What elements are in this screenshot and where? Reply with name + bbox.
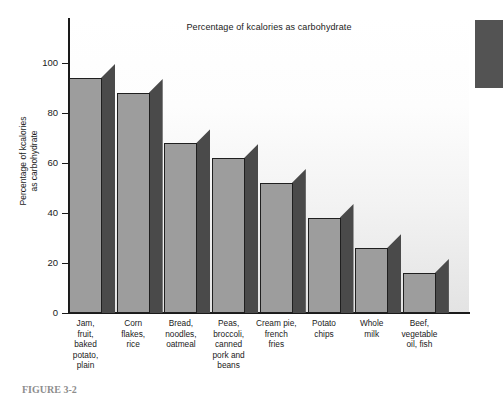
category-label-line: oatmeal — [157, 339, 204, 350]
category-label-8: Beef,vegetableoil, fish — [396, 318, 443, 350]
category-label-line: Jam, — [62, 318, 109, 329]
bar-front-face — [69, 78, 102, 313]
bar-side-panel — [149, 79, 163, 313]
bar-side-panel — [101, 64, 115, 313]
bar-8 — [403, 273, 436, 313]
category-label-line: oil, fish — [396, 339, 443, 350]
category-label-line: vegetable — [396, 329, 443, 340]
bar-7 — [355, 248, 388, 313]
category-label-line: milk — [348, 329, 395, 340]
category-label-2: Cornflakes,rice — [110, 318, 157, 350]
category-label-line: canned — [205, 339, 252, 350]
bar-front-face — [212, 158, 245, 313]
bar-2 — [117, 93, 150, 313]
bar-front-face — [117, 93, 150, 313]
category-label-line: rice — [110, 339, 157, 350]
category-label-4: Peas,broccoli,cannedpork andbeans — [205, 318, 252, 371]
category-label-5: Cream pie,frenchfries — [253, 318, 300, 350]
category-label-line: beans — [205, 360, 252, 371]
bar-front-face — [260, 183, 293, 313]
corner-color-swatch — [475, 20, 503, 88]
bar-side-panel — [340, 204, 354, 313]
category-label-line: Beef, — [396, 318, 443, 329]
bar-side-panel — [244, 144, 258, 313]
category-label-line: Corn — [110, 318, 157, 329]
bar-side-panel — [387, 234, 401, 313]
bar-side-panel — [196, 129, 210, 313]
bar-side-panel — [292, 169, 306, 313]
bar-3 — [164, 143, 197, 313]
bar-4 — [212, 158, 245, 313]
category-label-6: Potatochips — [301, 318, 348, 339]
category-label-line: plain — [62, 360, 109, 371]
bar-side-panel — [435, 259, 449, 313]
category-label-line: Bread, — [157, 318, 204, 329]
bar-front-face — [308, 218, 341, 313]
category-label-line: fruit, — [62, 329, 109, 340]
category-label-line: noodles, — [157, 329, 204, 340]
category-label-line: fries — [253, 339, 300, 350]
category-label-line: broccoli, — [205, 329, 252, 340]
category-label-line: Cream pie, — [253, 318, 300, 329]
category-label-line: Whole — [348, 318, 395, 329]
bar-1 — [69, 78, 102, 313]
figure-caption: FIGURE 3-2 — [22, 384, 77, 393]
category-label-7: Wholemilk — [348, 318, 395, 339]
category-label-line: baked — [62, 339, 109, 350]
category-label-line: flakes, — [110, 329, 157, 340]
bar-front-face — [403, 273, 436, 313]
category-label-line: chips — [301, 329, 348, 340]
category-label-line: potato, — [62, 350, 109, 361]
category-label-line: pork and — [205, 350, 252, 361]
category-label-line: Peas, — [205, 318, 252, 329]
bar-front-face — [355, 248, 388, 313]
category-label-1: Jam,fruit,bakedpotato,plain — [62, 318, 109, 371]
bar-6 — [308, 218, 341, 313]
bar-5 — [260, 183, 293, 313]
figure-panel: Percentage of kcalories as carbohydrate … — [0, 0, 503, 393]
category-label-3: Bread,noodles,oatmeal — [157, 318, 204, 350]
category-label-line: french — [253, 329, 300, 340]
category-label-line: Potato — [301, 318, 348, 329]
bar-front-face — [164, 143, 197, 313]
